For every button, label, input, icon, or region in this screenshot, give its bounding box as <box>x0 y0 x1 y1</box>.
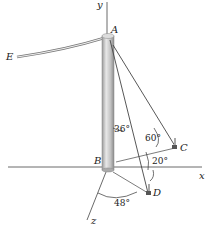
label-E: E <box>6 52 13 62</box>
label-D: D <box>153 188 161 198</box>
line-BD <box>113 172 148 193</box>
angle-20: 20° <box>152 157 168 166</box>
z-axis <box>87 172 106 220</box>
anchor-D <box>146 191 151 195</box>
angle-60: 60° <box>145 134 161 143</box>
pole-diagram <box>0 0 208 226</box>
angle-36: 36° <box>114 125 130 134</box>
arc-20b <box>150 170 154 181</box>
label-y: y <box>97 0 103 10</box>
label-A: A <box>111 25 118 35</box>
wire-AD <box>110 40 148 193</box>
label-B: B <box>94 156 101 166</box>
label-z: z <box>91 216 96 226</box>
pole-AB <box>102 36 114 170</box>
arc-48 <box>98 192 137 198</box>
anchor-C <box>172 145 177 149</box>
label-C: C <box>180 143 188 153</box>
angle-48: 48° <box>114 199 130 208</box>
cable-AE <box>17 38 104 57</box>
label-x: x <box>199 171 205 181</box>
